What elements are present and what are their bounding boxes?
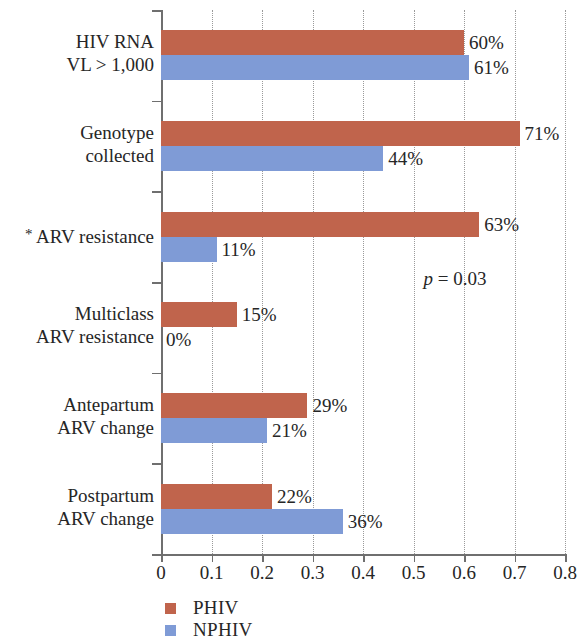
x-axis-tick bbox=[262, 554, 264, 562]
bar-value-label: 63% bbox=[484, 212, 519, 237]
bar-nphiv bbox=[161, 55, 469, 80]
bar-phiv bbox=[161, 121, 520, 146]
bar-nphiv bbox=[161, 509, 343, 534]
y-axis-tick bbox=[152, 101, 161, 103]
bar-phiv bbox=[161, 393, 307, 418]
bar-value-label: 21% bbox=[272, 418, 307, 443]
bar-value-label: 11% bbox=[222, 237, 256, 262]
legend-label: NPHIV bbox=[193, 619, 253, 641]
category-label: * ARV resistance bbox=[4, 223, 154, 248]
bar-phiv bbox=[161, 484, 272, 509]
footnote-marker: * bbox=[25, 226, 33, 242]
gridline bbox=[212, 10, 214, 554]
gridline bbox=[363, 10, 365, 554]
bar-phiv bbox=[161, 302, 237, 327]
bar-phiv bbox=[161, 212, 479, 237]
x-axis-tick bbox=[363, 554, 365, 562]
p-value-annotation: p = 0.03 bbox=[424, 268, 487, 290]
category-label-line: Antepartum bbox=[4, 393, 154, 416]
bar-value-label: 61% bbox=[474, 55, 509, 80]
x-axis-tick-label: 0.8 bbox=[535, 562, 578, 584]
y-axis-tick bbox=[152, 10, 161, 12]
y-axis-tick bbox=[152, 373, 161, 375]
y-axis-tick bbox=[152, 554, 161, 556]
x-axis-tick bbox=[565, 554, 567, 562]
x-axis-tick bbox=[464, 554, 466, 562]
category-label-line: VL > 1,000 bbox=[4, 53, 154, 76]
bar-value-label: 71% bbox=[525, 121, 560, 146]
gridline bbox=[262, 10, 264, 554]
x-axis-tick bbox=[313, 554, 315, 562]
category-label-line: Postpartum bbox=[4, 484, 154, 507]
category-label-line: * ARV resistance bbox=[4, 223, 154, 248]
bar-value-label: 22% bbox=[277, 484, 312, 509]
bar-value-label: 0% bbox=[166, 327, 191, 352]
y-axis-tick bbox=[152, 191, 161, 193]
x-axis-tick bbox=[414, 554, 416, 562]
bar-value-label: 29% bbox=[312, 393, 347, 418]
category-label: AntepartumARV change bbox=[4, 393, 154, 439]
category-label-line: Genotype bbox=[4, 121, 154, 144]
gridline bbox=[414, 10, 416, 554]
legend-swatch-nphiv bbox=[165, 625, 176, 636]
legend-item[interactable]: NPHIV bbox=[165, 619, 253, 641]
category-label: MulticlassARV resistance bbox=[4, 302, 154, 348]
x-axis-tick bbox=[212, 554, 214, 562]
legend-label: PHIV bbox=[193, 597, 239, 619]
legend-swatch-phiv bbox=[165, 603, 176, 614]
category-label-line: Multiclass bbox=[4, 302, 154, 325]
y-axis-tick bbox=[152, 282, 161, 284]
bar-nphiv bbox=[161, 146, 383, 171]
gridline bbox=[313, 10, 315, 554]
bar-value-label: 15% bbox=[242, 302, 277, 327]
x-axis-tick bbox=[515, 554, 517, 562]
y-axis-tick bbox=[152, 463, 161, 465]
bar-nphiv bbox=[161, 418, 267, 443]
chart-legend: PHIVNPHIV bbox=[165, 597, 253, 641]
bar-value-label: 60% bbox=[469, 30, 504, 55]
legend-item[interactable]: PHIV bbox=[165, 597, 253, 619]
p-symbol: p bbox=[424, 268, 434, 289]
gridline bbox=[565, 10, 567, 554]
bar-phiv bbox=[161, 30, 464, 55]
bar-value-label: 44% bbox=[388, 146, 423, 171]
horizontal-bar-chart: 00.10.20.30.40.50.60.70.8 HIV RNAVL > 1,… bbox=[0, 0, 578, 642]
category-label-line: ARV change bbox=[4, 416, 154, 439]
category-label: PostpartumARV change bbox=[4, 484, 154, 530]
category-label-line: ARV resistance bbox=[4, 325, 154, 348]
x-axis-tick bbox=[161, 554, 163, 562]
category-label-line: ARV change bbox=[4, 507, 154, 530]
category-label-line: HIV RNA bbox=[4, 30, 154, 53]
category-label: HIV RNAVL > 1,000 bbox=[4, 30, 154, 76]
category-label: Genotypecollected bbox=[4, 121, 154, 167]
gridline bbox=[515, 10, 517, 554]
bar-value-label: 36% bbox=[348, 509, 383, 534]
bar-nphiv bbox=[161, 237, 217, 262]
category-label-line: collected bbox=[4, 144, 154, 167]
